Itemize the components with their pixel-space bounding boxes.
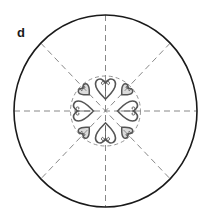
radial-lines bbox=[14, 15, 197, 207]
rotational-symmetry-diagram bbox=[0, 0, 207, 213]
heart-top-left-icon bbox=[77, 83, 93, 99]
heart-left-icon bbox=[74, 101, 94, 121]
heart-top-right-icon bbox=[118, 83, 134, 99]
heart-bottom-right-icon bbox=[118, 123, 134, 139]
heart-right-icon bbox=[118, 101, 138, 121]
heart-bottom-left-icon bbox=[77, 123, 93, 139]
